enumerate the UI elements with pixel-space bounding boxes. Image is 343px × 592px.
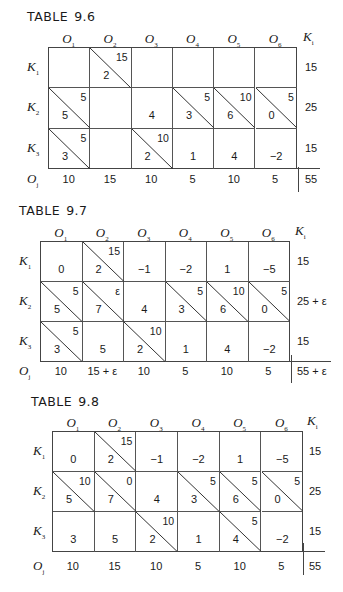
cost-value: 0 <box>53 453 94 465</box>
row-header-k2: K2 <box>19 293 31 311</box>
column-header-o6: O6 <box>248 225 290 243</box>
allocation-value: 10 <box>79 475 91 487</box>
allocation-value: 5 <box>73 325 79 337</box>
allocation-value: 5 <box>197 285 203 297</box>
header-symbol: K <box>295 223 304 238</box>
header-symbol: O <box>179 225 188 240</box>
allocation-value: 0 <box>127 475 133 487</box>
row-header-k1: K1 <box>19 253 31 271</box>
header-subscript: 3 <box>36 149 40 157</box>
demand-value: 10 <box>135 560 177 572</box>
cell-k2-o2 <box>90 88 131 128</box>
cost-value: 1 <box>178 533 219 545</box>
allocation-value: 10 <box>233 285 245 297</box>
cost-value: 5 <box>62 109 68 121</box>
grand-total-value: 55 <box>305 173 317 185</box>
cost-value: 0 <box>41 263 82 275</box>
cost-value: 4 <box>136 493 177 505</box>
cost-value: 3 <box>191 493 197 505</box>
cost-value: 6 <box>233 493 239 505</box>
allocation-value: 10 <box>162 515 174 527</box>
row-header-k1: K1 <box>27 59 39 77</box>
allocation-value: 10 <box>240 91 252 103</box>
column-header-o1: O1 <box>52 415 94 433</box>
cost-value: 5 <box>95 533 136 545</box>
cost-value: 1 <box>207 263 248 275</box>
cost-value: −2 <box>178 453 219 465</box>
cost-value: 0 <box>262 303 268 315</box>
cost-value: 3 <box>53 533 94 545</box>
cell-k2-o1: 55 <box>49 88 90 128</box>
allocation-value: 5 <box>294 475 300 487</box>
column-header-o2: O2 <box>94 415 136 433</box>
cost-value: 1 <box>173 150 213 162</box>
allocation-value: 5 <box>204 91 210 103</box>
header-symbol: K <box>303 29 312 44</box>
allocation-value: 5 <box>288 91 294 103</box>
header-symbol: O <box>96 225 105 240</box>
cell-k3-o3: 102 <box>124 322 166 362</box>
cost-value: 5 <box>66 493 72 505</box>
cost-value: 3 <box>186 109 192 121</box>
header-symbol: O <box>104 31 113 46</box>
cost-value: 4 <box>207 343 248 355</box>
cost-value: 0 <box>269 109 275 121</box>
row-header-k3: K3 <box>27 140 39 158</box>
demand-value: 15 <box>89 173 130 185</box>
header-symbol: O <box>54 225 63 240</box>
table-title: TABLE9.6 <box>27 9 96 24</box>
header-symbol: O <box>269 31 278 46</box>
cell-k1-o3 <box>132 48 173 88</box>
header-symbol: K <box>27 99 36 114</box>
header-symbol: K <box>19 253 28 268</box>
allocation-value: 15 <box>116 51 128 63</box>
cell-k3-o2: 5 <box>95 512 137 552</box>
cell-k1-o6: −5 <box>262 432 304 472</box>
demand-value: 15 + ε <box>82 365 124 377</box>
cell-k1-o5: 1 <box>220 432 262 472</box>
cell-k2-o5: 106 <box>214 88 255 128</box>
cost-value: 4 <box>233 533 239 545</box>
cell-k2-o1: 105 <box>53 472 95 512</box>
demand-value: 15 <box>94 560 136 572</box>
transport-grid: 15255453106505310214−2 <box>48 47 297 169</box>
cost-value: 6 <box>220 303 226 315</box>
column-header-o4: O4 <box>172 31 213 49</box>
cell-k1-o5 <box>214 48 255 88</box>
header-symbol: O <box>275 415 284 430</box>
cell-k3-o4: 1 <box>178 512 220 552</box>
cost-value: 2 <box>137 343 143 355</box>
column-header-supply: Ki <box>303 29 314 47</box>
header-symbol: O <box>137 225 146 240</box>
column-header-o6: O6 <box>255 31 296 49</box>
cell-k3-o6: −2 <box>249 322 291 362</box>
header-symbol: K <box>27 140 36 155</box>
cost-value: −2 <box>249 343 291 355</box>
demand-value: 10 <box>48 173 89 185</box>
cost-value: −5 <box>249 263 291 275</box>
cell-k1-o6: −5 <box>249 242 291 282</box>
row-header-demand: Oj <box>27 171 38 189</box>
header-subscript: 2 <box>42 493 46 501</box>
demand-value: 10 <box>219 560 261 572</box>
cost-value: 4 <box>124 303 165 315</box>
allocation-value: 5 <box>80 132 86 144</box>
column-header-o4: O4 <box>177 415 219 433</box>
header-symbol: O <box>191 415 200 430</box>
allocation-value: 5 <box>80 91 86 103</box>
header-symbol: K <box>33 443 42 458</box>
demand-value: 10 <box>123 365 165 377</box>
header-subscript: 1 <box>42 453 46 461</box>
row-header-demand: Oj <box>19 363 30 381</box>
header-symbol: O <box>27 171 36 186</box>
header-symbol: K <box>27 59 36 74</box>
cell-k3-o5: 4 <box>207 322 249 362</box>
header-symbol: K <box>33 483 42 498</box>
header-subscript: 3 <box>28 343 32 351</box>
cost-value: 5 <box>83 343 124 355</box>
cell-k1-o4: −2 <box>166 242 208 282</box>
cell-k2-o6: 50 <box>249 282 291 322</box>
row-header-k3: K3 <box>33 523 45 541</box>
grand-total-value: 55 <box>309 560 321 572</box>
cell-k3-o4: 1 <box>173 129 214 169</box>
